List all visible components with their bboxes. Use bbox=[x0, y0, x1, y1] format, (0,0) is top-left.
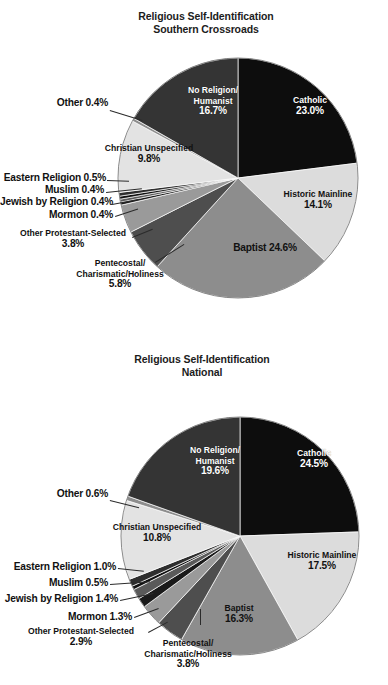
chart1-label-eastern-religion: Eastern Religion 0.5% bbox=[0, 173, 106, 184]
chart1-eastern-value: Eastern Religion 0.5% bbox=[4, 172, 106, 183]
chart2-label-mormon: Mormon 1.3% bbox=[0, 612, 132, 623]
chart2-noreligion-name1: No Religion/ bbox=[190, 445, 240, 455]
chart2-label-jewish-by-religion: Jewish by Religion 1.4% bbox=[0, 594, 118, 605]
chart1-noreligion-value: 16.7% bbox=[199, 105, 227, 116]
chart2-historic-name: Historic Mainline bbox=[288, 550, 357, 560]
chart1-label-christian-unspecified: Christian Unspecified 9.8% bbox=[94, 143, 204, 164]
chart2-eastern-value: Eastern Religion 1.0% bbox=[14, 561, 116, 572]
chart1-noreligion-name1: No Religion/ bbox=[188, 85, 238, 95]
chart2-pentecostal-value: 3.8% bbox=[177, 658, 199, 669]
chart1-label-baptist: Baptist 24.6% bbox=[210, 243, 320, 254]
chart2-label-historic-mainline: Historic Mainline 17.5% bbox=[274, 550, 370, 571]
chart2-historic-value: 17.5% bbox=[308, 560, 336, 571]
pie-chart-southern-crossroads: Religious Self-Identification Southern C… bbox=[0, 0, 388, 340]
chart1-mormon-value: Mormon 0.4% bbox=[49, 209, 113, 220]
chart2-christian-name: Christian Unspecified bbox=[113, 522, 201, 532]
chart1-noreligion-name2: Humanist bbox=[193, 96, 232, 106]
chart1-catholic-value: 23.0% bbox=[296, 105, 324, 116]
chart2-baptist-name: Baptist bbox=[224, 603, 253, 613]
chart1-other-value: Other 0.4% bbox=[57, 97, 108, 108]
chart1-label-other-protestant: Other Protestant-Selected 3.8% bbox=[7, 228, 139, 249]
chart2-jewish-value: Jewish by Religion 1.4% bbox=[5, 593, 118, 604]
pie-slice-catholic bbox=[238, 58, 357, 178]
chart2-baptist-value: 16.3% bbox=[225, 613, 253, 624]
chart2-catholic-name: Catholic bbox=[297, 448, 331, 458]
chart1-label-muslim: Muslim 0.4% bbox=[0, 185, 104, 196]
chart1-label-no-religion: No Religion/ Humanist 16.7% bbox=[171, 85, 255, 117]
chart2-label-other: Other 0.6% bbox=[28, 489, 108, 500]
chart2-label-baptist: Baptist 16.3% bbox=[203, 603, 275, 624]
chart1-pentecostal-name1: Pentecostal/ bbox=[95, 258, 146, 268]
chart1-muslim-value: Muslim 0.4% bbox=[45, 184, 104, 195]
chart1-jewish-value: Jewish by Religion 0.4% bbox=[0, 196, 113, 207]
chart2-mormon-value: Mormon 1.3% bbox=[68, 611, 132, 622]
pie-chart-national: Religious Self-Identification National C… bbox=[0, 340, 388, 685]
chart2-otherprot-value: 2.9% bbox=[70, 636, 92, 647]
chart1-label-mormon: Mormon 0.4% bbox=[0, 210, 113, 221]
chart1-otherprot-name: Other Protestant-Selected bbox=[20, 228, 126, 238]
chart2-leader-pentecostal bbox=[200, 609, 201, 625]
pie-slice-catholic bbox=[240, 417, 359, 536]
chart1-label-historic-mainline: Historic Mainline 14.1% bbox=[272, 189, 364, 210]
chart2-otherprot-name: Other Protestant-Selected bbox=[28, 626, 134, 636]
chart2-noreligion-name2: Humanist bbox=[195, 456, 234, 466]
chart1-historic-value: 14.1% bbox=[304, 199, 332, 210]
chart1-historic-name: Historic Mainline bbox=[284, 189, 353, 199]
chart2-label-christian-unspecified: Christian Unspecified 10.8% bbox=[101, 522, 213, 543]
chart1-catholic-name: Catholic bbox=[293, 95, 327, 105]
chart1-label-other: Other 0.4% bbox=[30, 98, 108, 109]
chart2-other-value: Other 0.6% bbox=[57, 488, 108, 499]
chart2-label-no-religion: No Religion/ Humanist 19.6% bbox=[172, 445, 258, 477]
chart2-label-pentecostal: Pentecostal/ Charismatic/Holiness 3.8% bbox=[125, 638, 251, 670]
chart1-label-pentecostal: Pentecostal/ Charismatic/Holiness 5.8% bbox=[60, 258, 180, 290]
chart1-pentecostal-name2: Charismatic/Holiness bbox=[76, 269, 163, 279]
chart1-label-jewish-by-religion: Jewish by Religion 0.4% bbox=[0, 197, 110, 208]
chart1-pentecostal-value: 5.8% bbox=[109, 278, 131, 289]
chart2-christian-value: 10.8% bbox=[143, 532, 171, 543]
chart2-muslim-value: Muslim 0.5% bbox=[49, 577, 108, 588]
chart2-label-catholic: Catholic 24.5% bbox=[272, 448, 356, 469]
chart1-label-catholic: Catholic 23.0% bbox=[268, 95, 352, 116]
chart1-christian-name: Christian Unspecified bbox=[105, 143, 193, 153]
chart1-otherprot-value: 3.8% bbox=[62, 238, 84, 249]
chart1-baptist-value: Baptist 24.6% bbox=[233, 242, 297, 253]
chart2-label-muslim: Muslim 0.5% bbox=[0, 578, 108, 589]
chart2-pentecostal-name1: Pentecostal/ bbox=[163, 638, 214, 648]
chart1-christian-value: 9.8% bbox=[138, 153, 160, 164]
chart2-pentecostal-name2: Charismatic/Holiness bbox=[144, 649, 231, 659]
chart2-catholic-value: 24.5% bbox=[300, 458, 328, 469]
chart2-noreligion-value: 19.6% bbox=[201, 465, 229, 476]
chart1-pie-graphic bbox=[0, 0, 388, 340]
chart2-label-eastern-religion: Eastern Religion 1.0% bbox=[0, 562, 116, 573]
